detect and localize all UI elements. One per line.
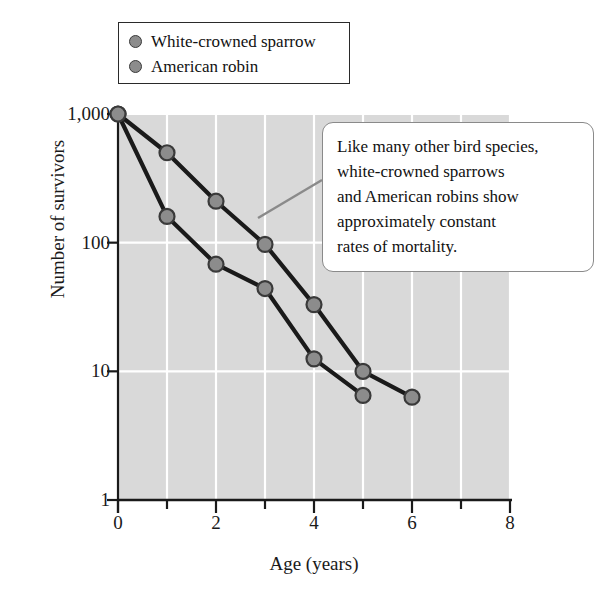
x-tick-label: 2 — [211, 512, 221, 534]
y-tick-label: 10 — [91, 360, 110, 382]
annotation-callout-text: Like many other bird species,white-crown… — [337, 134, 579, 259]
x-tick-label: 0 — [113, 512, 123, 534]
legend-item-label: American robin — [151, 58, 258, 76]
y-tick-label: 1 — [101, 489, 111, 511]
y-tick-label: 100 — [82, 232, 111, 254]
y-tick-label: 1,000 — [67, 103, 110, 125]
legend-item-label: White-crowned sparrow — [151, 33, 316, 51]
chart-legend: White-crowned sparrow American robin — [118, 22, 350, 84]
legend-item-white-crowned-sparrow[interactable]: White-crowned sparrow — [129, 29, 339, 54]
x-axis-title: Age (years) — [118, 553, 510, 575]
x-tick-label: 8 — [505, 512, 515, 534]
survivorship-curve-figure: White-crowned sparrow American robin 1,0… — [0, 0, 616, 593]
x-tick-label: 6 — [407, 512, 417, 534]
y-axis-title: Number of survivors — [47, 99, 69, 339]
legend-item-american-robin[interactable]: American robin — [129, 54, 339, 79]
annotation-callout: Like many other bird species,white-crown… — [322, 122, 594, 272]
circle-marker-icon — [129, 60, 142, 73]
x-axis-tick-labels: 02468 — [0, 512, 616, 542]
circle-marker-icon — [129, 35, 142, 48]
x-tick-label: 4 — [309, 512, 319, 534]
